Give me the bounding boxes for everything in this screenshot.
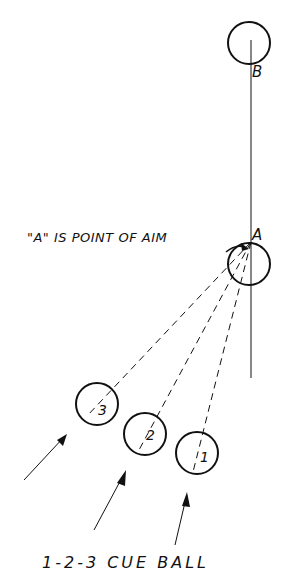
caption: 1-2-3 CUE BALL (42, 553, 209, 572)
cue-ball-1-label: 1 (200, 449, 209, 465)
cue-ball-3 (76, 383, 118, 425)
arrow-1-head-icon (182, 492, 190, 507)
ball-b-label: B (252, 63, 262, 81)
aim-line-2 (139, 242, 251, 450)
cue-ball-2-label: 2 (146, 427, 155, 443)
ball-a-label: A (252, 226, 262, 244)
cue-ball-2 (124, 413, 166, 455)
ball-a (228, 243, 270, 285)
aim-line-1 (193, 242, 251, 472)
arrow-3-head-icon (57, 434, 67, 446)
diagram-canvas (0, 0, 291, 588)
ball-b (228, 22, 270, 64)
aim-label: "A" IS POINT OF AIM (27, 230, 167, 245)
cue-ball-1 (176, 432, 218, 474)
cue-ball-3-label: 3 (98, 402, 107, 418)
arrow-3-shaft (24, 437, 64, 480)
